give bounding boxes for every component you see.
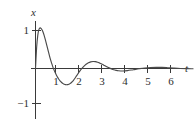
- x-tick-label-2: 2: [76, 75, 82, 87]
- damped-oscillation-chart: 1 2 3 4 5 6 1 −1 x t: [0, 0, 195, 124]
- x-tick-label-4: 4: [122, 75, 128, 87]
- y-tick-label-neg1: −1: [17, 97, 29, 109]
- plot-area: 1 2 3 4 5 6 1 −1 x t: [0, 0, 195, 124]
- x-tick-label-5: 5: [145, 75, 151, 87]
- y-axis-label: x: [30, 6, 36, 18]
- y-tick-labels: 1 −1: [17, 24, 29, 109]
- x-tick-labels: 1 2 3 4 5 6: [53, 75, 174, 87]
- x-tick-label-6: 6: [168, 75, 174, 87]
- x-axis-label: t: [185, 62, 189, 74]
- x-tick-label-3: 3: [99, 75, 105, 87]
- y-tick-label-pos1: 1: [24, 24, 30, 36]
